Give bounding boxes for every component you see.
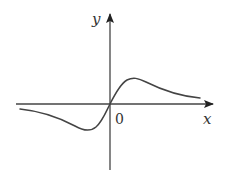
origin-label: 0 <box>115 111 124 127</box>
y-axis-label: y <box>91 10 101 28</box>
function-graph: y 0 x <box>0 0 226 174</box>
x-axis-label: x <box>203 110 212 128</box>
